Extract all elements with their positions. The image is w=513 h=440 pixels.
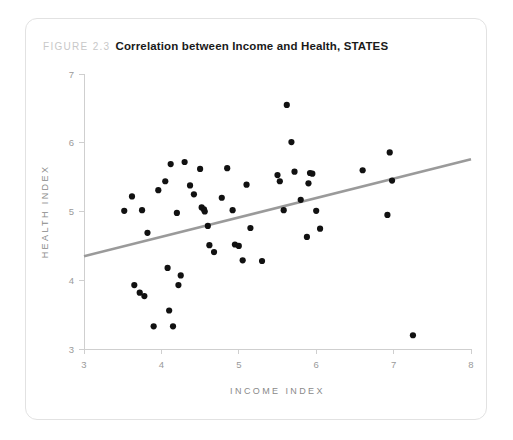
data-point [240,257,246,263]
x-axis-tick-label-4: 7 [391,359,396,370]
data-point [131,282,137,288]
data-point [187,182,193,188]
y-axis-tick-label-1: 4 [69,275,74,286]
y-axis-tick-label-4: 7 [69,69,74,80]
data-point [164,265,170,271]
data-point [317,226,323,232]
data-point [129,193,135,199]
data-point [205,223,211,229]
data-point [178,272,184,278]
data-point [288,139,294,145]
data-point [151,323,157,329]
data-point [170,323,176,329]
data-point [144,230,150,236]
x-axis-tick-label-3: 6 [314,359,319,370]
data-point [298,197,304,203]
x-axis-tick-label-1: 4 [159,359,164,370]
x-axis-tick-label-2: 5 [236,359,241,370]
data-point [206,242,212,248]
data-point [175,282,181,288]
data-point [259,258,265,264]
data-point [219,195,225,201]
data-point [291,169,297,175]
data-point [197,166,203,172]
data-point [168,161,174,167]
data-point [305,180,311,186]
data-point [236,243,242,249]
data-point [360,167,366,173]
data-point [313,208,319,214]
data-point [230,207,236,213]
y-axis-tick-label-2: 5 [69,206,74,217]
data-point [121,208,127,214]
data-point [281,207,287,213]
data-point [389,177,395,183]
data-point [277,178,283,184]
data-point [384,212,390,218]
data-point [224,165,230,171]
data-point [243,182,249,188]
data-point [174,210,180,216]
data-point [141,293,147,299]
data-point [211,249,217,255]
data-point [155,187,161,193]
data-point [202,208,208,214]
x-axis-tick-label-0: 3 [81,359,86,370]
data-point [284,102,290,108]
data-point [410,332,416,338]
y-axis-tick-label-3: 6 [69,137,74,148]
data-point [182,159,188,165]
data-point [162,178,168,184]
data-point [191,191,197,197]
data-point [139,207,145,213]
y-axis-label: HEALTH INDEX [40,165,50,259]
x-axis-label: INCOME INDEX [230,386,325,396]
data-point [247,225,253,231]
scatter-plot: 34567345678INCOME INDEXHEALTH INDEX [26,19,488,421]
figure-card: FIGURE 2.3Correlation between Income and… [25,18,487,420]
y-axis-tick-label-0: 3 [69,344,74,355]
data-point [304,234,310,240]
data-point [166,307,172,313]
data-point [274,172,280,178]
data-point [387,149,393,155]
x-axis-tick-label-5: 8 [468,359,473,370]
data-point [309,171,315,177]
